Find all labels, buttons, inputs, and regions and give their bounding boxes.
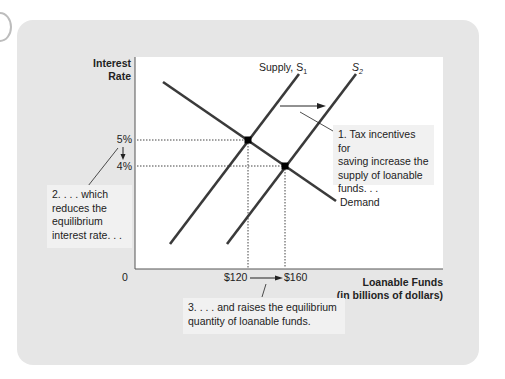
equilibrium-point-1 xyxy=(245,137,252,144)
equilibrium-point-2 xyxy=(282,163,289,170)
supply-s1-label: Supply, S1 xyxy=(259,61,307,75)
annotation-2: 2. . . . which reduces the equilibrium i… xyxy=(47,185,132,248)
x-axis-title-line1: Loanable Funds xyxy=(330,276,443,289)
annotation-2-line3: equilibrium xyxy=(52,215,127,229)
annotation-1-line1: 1. Tax incentives for xyxy=(338,128,429,155)
leader-note3 xyxy=(262,284,266,297)
x-axis-title: Loanable Funds (in billions of dollars) xyxy=(330,276,443,302)
y-tick-4pct: 4% xyxy=(100,160,132,172)
supply-s2-prefix: S xyxy=(352,61,359,73)
y-tick-5pct: 5% xyxy=(100,133,132,145)
supply-s2-label: S2 xyxy=(352,61,363,75)
annotation-1-line3: supply of loanable xyxy=(338,169,429,183)
supply-s1-prefix: Supply, S xyxy=(259,61,303,73)
annotation-1: 1. Tax incentives for saving increase th… xyxy=(333,125,434,185)
supply-s1-sub: 1 xyxy=(303,68,307,75)
y-axis-title-line2: Rate xyxy=(70,70,131,83)
x-axis-title-line2: (in billions of dollars) xyxy=(330,289,443,302)
quantity-arrowhead xyxy=(275,276,283,281)
x-tick-160: $160 xyxy=(284,271,307,283)
annotation-1-line2: saving increase the xyxy=(338,155,429,169)
y-axis-title: Interest Rate xyxy=(70,57,131,83)
y-axis-title-line1: Interest xyxy=(70,57,131,70)
annotation-3-line2: quantity of loanable funds. xyxy=(188,315,340,329)
annotation-3-line1: 3. . . . and raises the equilibrium xyxy=(188,301,340,315)
annotation-3: 3. . . . and raises the equilibrium quan… xyxy=(183,298,345,334)
demand-label: Demand xyxy=(340,196,380,208)
annotation-2-line1: 2. . . . which xyxy=(52,188,127,202)
annotation-1-line4: funds. . . xyxy=(338,182,429,196)
annotation-2-line4: interest rate. . . xyxy=(52,229,127,243)
supply-s2-sub: 2 xyxy=(359,68,363,75)
annotation-2-line2: reduces the xyxy=(52,202,127,216)
origin-label: 0 xyxy=(122,271,128,283)
x-tick-120: $120 xyxy=(224,271,247,283)
shift-arrowhead xyxy=(317,103,326,109)
